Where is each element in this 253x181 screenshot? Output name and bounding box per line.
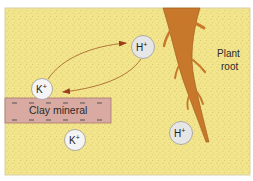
- clay-mineral: Clay mineral: [5, 98, 111, 123]
- clay-mineral-label: Clay mineral: [29, 104, 87, 116]
- cation-exchange-diagram: Plant root Clay mineral K+ K+: [0, 0, 253, 181]
- plant-root-label-line1: Plant: [217, 48, 240, 59]
- ion-h-upper: H+: [132, 36, 155, 59]
- ion-k-upper: K+: [32, 79, 53, 100]
- plant-root-label-line2: root: [221, 61, 238, 72]
- ion-h-lower: H+: [170, 122, 193, 145]
- ion-k-lower: K+: [65, 130, 86, 151]
